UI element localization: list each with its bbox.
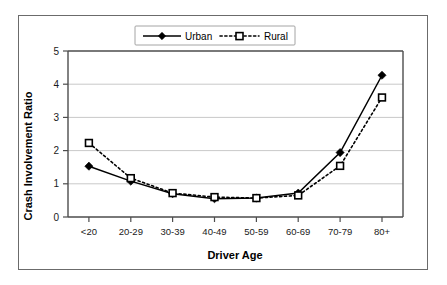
data-point-rural-80+	[379, 94, 386, 101]
x-axis-title: Driver Age	[207, 249, 262, 261]
ytick-label-2: 2	[53, 145, 59, 156]
legend-marker-square-rural	[236, 33, 243, 40]
y-gridlines	[68, 84, 403, 184]
ytick-label-0: 0	[53, 212, 59, 223]
data-point-rural-70-79	[337, 162, 344, 169]
chart-legend: Urban Rural	[135, 26, 295, 45]
xtick-label-3: 40-49	[202, 226, 226, 237]
xtick-label-0: <20	[81, 226, 97, 237]
data-point-rural-50-59	[253, 195, 260, 202]
chart-figure-frame: Urban Rural Crash Involvement Ratio 5 4 …	[18, 15, 428, 270]
data-point-urban-<20	[85, 162, 93, 170]
legend-label-rural: Rural	[264, 31, 288, 42]
data-point-rural-30-39	[169, 190, 176, 197]
ytick-label-1: 1	[53, 178, 59, 189]
xtick-label-6: 70-79	[328, 226, 352, 237]
series-urban	[85, 71, 386, 203]
x-axis-ticks: <20 20-29 30-39 40-49 50-59 60-69 70-79 …	[81, 217, 391, 237]
data-point-rural-20-29	[127, 175, 134, 182]
y-axis-title: Crash Involvement Ratio	[22, 91, 34, 220]
xtick-label-2: 30-39	[160, 226, 184, 237]
xtick-label-4: 50-59	[244, 226, 268, 237]
data-point-rural-<20	[86, 140, 93, 147]
data-point-rural-40-49	[211, 194, 218, 201]
data-point-rural-60-69	[295, 192, 302, 199]
data-series-layer	[85, 71, 386, 203]
ytick-label-3: 3	[53, 112, 59, 123]
crash-involvement-ratio-line-chart: Urban Rural Crash Involvement Ratio 5 4 …	[19, 16, 427, 269]
data-point-urban-80+	[378, 71, 386, 79]
ytick-label-5: 5	[53, 46, 59, 57]
y-axis-ticks: 5 4 3 2 1 0	[53, 46, 68, 223]
legend-label-urban: Urban	[185, 31, 212, 42]
series-rural	[86, 94, 386, 201]
ytick-label-4: 4	[53, 79, 59, 90]
xtick-label-1: 20-29	[119, 226, 143, 237]
xtick-label-7: 80+	[374, 226, 391, 237]
xtick-label-5: 60-69	[286, 226, 310, 237]
